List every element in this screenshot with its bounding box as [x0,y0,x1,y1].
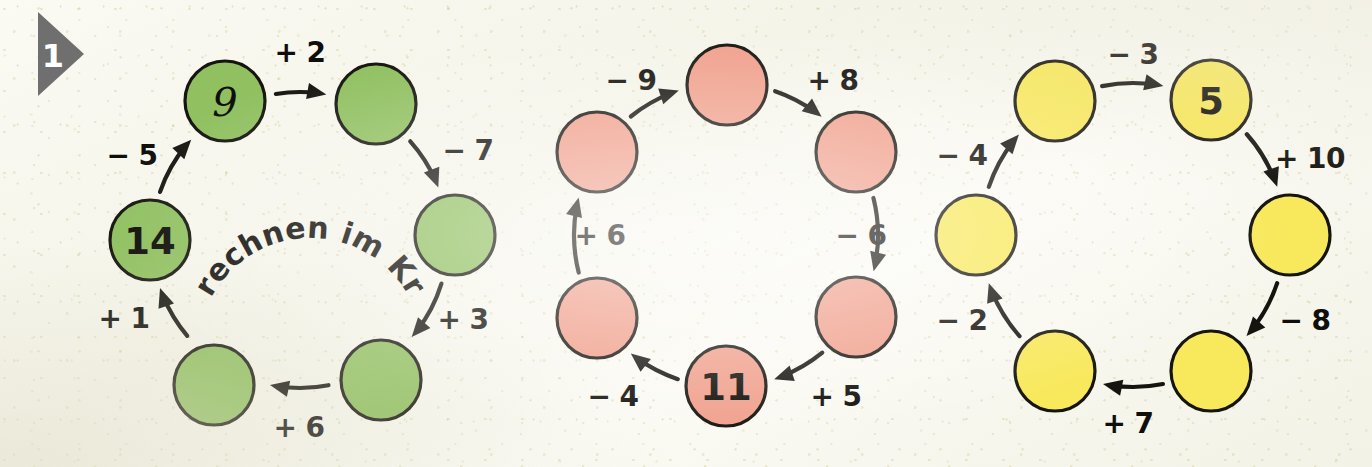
cycle-node[interactable] [687,45,767,125]
arrow-head-icon [1247,317,1266,337]
operation-label: + 10 [1275,142,1345,175]
arrow-head-icon [802,99,822,117]
cycle-node[interactable] [1015,331,1095,411]
cycle-node[interactable] [816,277,896,357]
cycle-node-value: 9 [212,79,237,125]
operation-label: − 4 [936,139,987,172]
operation-label: − 9 [605,64,656,97]
cycle-node[interactable] [557,112,637,192]
arrow-head-icon [306,83,326,99]
operation-label: − 4 [587,380,638,413]
arrow-head-icon [424,167,439,188]
operation-label: − 7 [442,134,493,167]
operation-label: − 2 [936,304,987,337]
operation-label: − 5 [106,139,157,172]
cycle-node[interactable] [816,112,896,192]
cycle-node[interactable] [415,195,495,275]
arrow-head-icon [774,365,795,381]
arrow-head-icon [270,381,290,397]
operation-label: + 2 [274,36,325,69]
cycle-node-value: 14 [124,220,176,263]
operation-label: + 6 [273,411,324,444]
worksheet-page: 914+ 2− 7+ 3+ 6+ 1− 511− 9+ 8− 6+ 5− 4+ … [0,0,1372,467]
arrow-head-icon [172,140,191,160]
cycle-node[interactable] [1250,195,1330,275]
cycle-node[interactable] [1015,61,1095,141]
arrow-head-icon [566,198,582,218]
exercise-marker: 1 [38,12,84,96]
arrow-head-icon [412,317,431,337]
cycle-node[interactable] [174,345,254,425]
operation-label: + 7 [1102,407,1153,440]
operation-label: + 8 [807,64,858,97]
arrow-head-icon [1143,74,1163,90]
operation-label: − 6 [835,219,886,252]
arrow-head-icon [631,354,651,372]
operation-label: + 6 [574,219,625,252]
arrow-head-icon [987,283,1003,304]
cycle-node[interactable] [336,64,416,144]
arrow-head-icon [658,89,679,105]
cycle-node[interactable] [1171,331,1251,411]
red-cycle: 11− 9+ 8− 6+ 5− 4+ 6 [557,45,896,426]
cycle-node[interactable] [936,195,1016,275]
cycle-node[interactable] [341,340,421,420]
arrow-head-icon [1000,135,1019,155]
cycle-node[interactable] [557,278,637,358]
cycle-node-value: 5 [1198,80,1224,123]
operation-label: + 5 [810,380,861,413]
arrow-head-icon [870,251,886,271]
operation-label: − 8 [1279,304,1330,337]
operation-label: + 3 [437,303,488,336]
yellow-cycle: 5− 3+ 10− 8+ 7− 2− 4 [936,38,1345,440]
operation-label: − 3 [1107,38,1158,71]
arrow-head-icon [1103,380,1123,396]
operation-label: + 1 [98,302,149,335]
arrow-head-icon [159,288,175,309]
cycle-node-value: 11 [700,366,752,409]
exercise-number: 1 [42,37,64,75]
cycles-diagram: 914+ 2− 7+ 3+ 6+ 1− 511− 9+ 8− 6+ 5− 4+ … [0,0,1372,467]
